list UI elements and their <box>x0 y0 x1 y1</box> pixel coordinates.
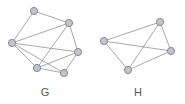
graph-node-h2 <box>156 18 163 25</box>
graph-node-h1 <box>100 37 107 44</box>
graph-node-h4 <box>124 66 131 73</box>
graph-edge <box>37 23 69 68</box>
graph-edge <box>104 22 160 41</box>
graph-node-g3 <box>8 39 15 46</box>
graph-edge <box>12 11 34 43</box>
graph-node-g4 <box>74 48 81 55</box>
nodes-layer <box>8 7 174 76</box>
graph-edge <box>69 23 78 52</box>
graph-label-G: G <box>41 86 50 98</box>
graph-node-g2 <box>65 19 72 26</box>
graph-edge <box>160 22 171 51</box>
graph-node-g5 <box>33 64 40 71</box>
graph-H-edges <box>104 22 171 70</box>
graph-edge <box>12 43 78 52</box>
graph-node-g6 <box>60 69 67 76</box>
graph-G-nodes <box>8 7 81 76</box>
graph-node-g1 <box>30 7 37 14</box>
graph-figure: GH <box>0 0 185 104</box>
edges-layer <box>12 11 171 73</box>
graph-edge <box>104 41 171 51</box>
graph-label-H: H <box>134 86 142 98</box>
graph-edge <box>104 41 128 70</box>
graph-diagram-canvas: GH <box>0 0 185 104</box>
labels-layer: GH <box>41 86 142 98</box>
graph-edge <box>12 23 69 43</box>
graph-node-h3 <box>167 47 174 54</box>
graph-edge <box>34 11 69 23</box>
